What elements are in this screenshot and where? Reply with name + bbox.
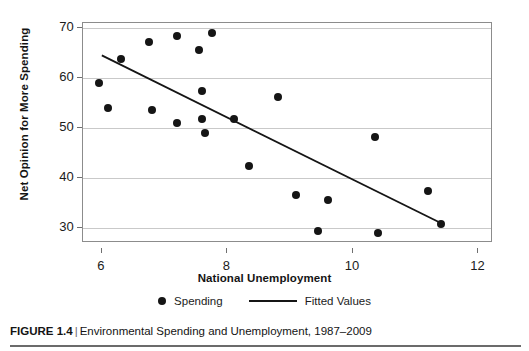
scatter-point: [117, 55, 125, 63]
x-tick-mark-6: [101, 248, 102, 253]
gridline-y-30: [83, 228, 491, 229]
scatter-point: [95, 79, 103, 87]
y-axis-title: Net Opinion for More Spending: [18, 14, 30, 214]
scatter-point: [245, 162, 253, 170]
scatter-point: [198, 87, 206, 95]
y-tick-label-30: 30: [40, 219, 74, 234]
y-tick-mark-40: [77, 177, 82, 178]
y-tick-label-60: 60: [40, 69, 74, 84]
scatter-point: [424, 187, 432, 195]
gridline-y-60: [83, 78, 491, 79]
y-tick-mark-70: [77, 27, 82, 28]
caption-rule: [10, 345, 521, 347]
scatter-point: [201, 129, 209, 137]
x-tick-label-6: 6: [86, 258, 116, 273]
figure-caption-text: Environmental Spending and Unemployment,…: [80, 325, 372, 337]
fitted-values-line: [83, 23, 491, 241]
x-tick-mark-10: [352, 248, 353, 253]
y-tick-mark-50: [77, 127, 82, 128]
legend-item-fitted-values: Fitted Values: [249, 295, 371, 307]
chart-legend: Spending Fitted Values: [0, 295, 529, 307]
scatter-point: [292, 191, 300, 199]
gridline-y-50: [83, 128, 491, 129]
legend-line-icon: [249, 300, 297, 302]
legend-label-spending: Spending: [174, 295, 223, 307]
legend-item-spending: Spending: [158, 295, 223, 307]
scatter-point: [208, 29, 216, 37]
scatter-point: [198, 115, 206, 123]
x-tick-label-10: 10: [337, 258, 367, 273]
scatter-point: [374, 229, 382, 237]
y-tick-mark-30: [77, 227, 82, 228]
y-tick-label-50: 50: [40, 119, 74, 134]
y-tick-mark-60: [77, 77, 82, 78]
figure-caption-separator: |: [73, 325, 80, 337]
plot-area: [82, 22, 492, 242]
scatter-point: [274, 93, 282, 101]
scatter-point: [324, 196, 332, 204]
scatter-point: [148, 106, 156, 114]
scatter-point: [314, 227, 322, 235]
scatter-point: [173, 119, 181, 127]
x-tick-label-8: 8: [211, 258, 241, 273]
figure-caption: FIGURE 1.4|Environmental Spending and Un…: [10, 325, 521, 337]
scatter-point: [104, 104, 112, 112]
scatter-point: [230, 115, 238, 123]
scatter-point: [371, 133, 379, 141]
legend-label-fitted-values: Fitted Values: [305, 295, 371, 307]
scatter-point: [145, 38, 153, 46]
x-tick-mark-12: [477, 248, 478, 253]
x-tick-label-12: 12: [462, 258, 492, 273]
scatter-point: [195, 46, 203, 54]
x-axis-title: National Unemployment: [0, 272, 529, 284]
legend-dot-icon: [158, 297, 166, 305]
figure-caption-label: FIGURE 1.4: [10, 325, 73, 337]
scatter-point: [437, 220, 445, 228]
gridline-y-70: [83, 28, 491, 29]
gridline-y-40: [83, 178, 491, 179]
scatter-point: [173, 32, 181, 40]
y-tick-label-70: 70: [40, 19, 74, 34]
x-tick-mark-8: [226, 248, 227, 253]
figure-container: 3040506070 681012 National Unemployment …: [0, 0, 529, 351]
y-tick-label-40: 40: [40, 169, 74, 184]
